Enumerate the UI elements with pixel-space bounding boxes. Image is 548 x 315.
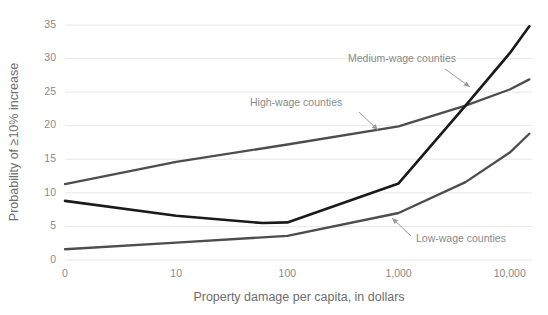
medium-wage-annotation-arrowhead-icon	[464, 81, 470, 87]
y-axis-tick-label: 30	[44, 51, 56, 63]
x-axis-title: Property damage per capita, in dollars	[193, 290, 404, 304]
line-chart: 05101520253035 0101001,00010,000 Medium-…	[0, 0, 548, 315]
y-axis-tick-label: 15	[44, 152, 56, 164]
x-axis-tick-label: 1,000	[385, 267, 411, 279]
y-axis-tick-label: 25	[44, 85, 56, 97]
high-wage-annotation-label: High-wage counties	[250, 96, 342, 108]
y-axis-tick-labels: 05101520253035	[44, 18, 56, 265]
y-axis-tick-label: 20	[44, 118, 56, 130]
chart-container: 05101520253035 0101001,00010,000 Medium-…	[0, 0, 548, 315]
y-axis-tick-label: 0	[50, 253, 56, 265]
x-axis-tick-label: 100	[279, 267, 297, 279]
y-axis-title: Probability of ≥10% increase	[7, 63, 21, 221]
medium-wage-annotation-label: Medium-wage counties	[348, 52, 456, 64]
x-axis-tick-labels: 0101001,00010,000	[62, 267, 526, 279]
annotations: Medium-wage countiesHigh-wage countiesLo…	[250, 52, 506, 244]
y-axis-tick-label: 35	[44, 18, 56, 30]
x-axis-tick-label: 10,000	[494, 267, 526, 279]
y-axis-tick-label: 5	[50, 219, 56, 231]
x-axis-tick-label: 10	[170, 267, 182, 279]
y-axis-tick-label: 10	[44, 186, 56, 198]
series-lines	[65, 26, 529, 249]
x-axis-tick-label: 0	[62, 267, 68, 279]
series-line-medium-wage-counties	[65, 26, 529, 223]
low-wage-annotation-label: Low-wage counties	[416, 232, 506, 244]
